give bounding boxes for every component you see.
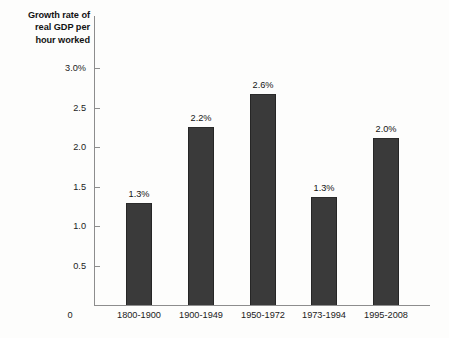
chart-title: Growth rate of real GDP per hour worked — [8, 9, 90, 46]
bar-1973-1994 — [311, 197, 337, 305]
chart-title-line-3: hour worked — [8, 34, 90, 46]
chart-title-line-1: Growth rate of — [8, 9, 90, 21]
chart-title-line-2: real GDP per — [8, 21, 90, 33]
bar-1900-1949 — [188, 127, 214, 305]
y-axis-tick-1.5 — [94, 187, 100, 188]
bar-1995-2008 — [373, 138, 399, 305]
x-axis-label-1995-2008: 1995-2008 — [343, 310, 429, 320]
bar-value-1973-1994: 1.3% — [294, 183, 354, 193]
y-axis-label-3.0: 3.0% — [26, 63, 86, 73]
bar-value-1950-1972: 2.6% — [233, 80, 293, 90]
y-axis-line — [94, 16, 95, 306]
y-axis-tick-2.0 — [94, 147, 100, 148]
y-axis-label-1.0: 1.0 — [26, 221, 86, 231]
bar-1950-1972 — [250, 94, 276, 305]
y-axis-tick-2.5 — [94, 108, 100, 109]
x-axis-line — [94, 305, 430, 306]
y-axis-label-2.5: 2.5 — [26, 103, 86, 113]
y-axis-label-1.5: 1.5 — [26, 182, 86, 192]
y-axis-label-0: 0 — [60, 310, 80, 320]
y-axis-tick-0.5 — [94, 266, 100, 267]
y-axis-tick-1.0 — [94, 226, 100, 227]
bar-value-1800-1900: 1.3% — [109, 189, 169, 199]
y-axis-label-0.5: 0.5 — [26, 261, 86, 271]
bar-value-1900-1949: 2.2% — [171, 113, 231, 123]
bar-chart: Growth rate of real GDP per hour worked … — [0, 0, 449, 338]
y-axis-tick-3.0 — [94, 68, 100, 69]
y-axis-label-2.0: 2.0 — [26, 142, 86, 152]
bar-1800-1900 — [126, 203, 152, 305]
bar-value-1995-2008: 2.0% — [356, 124, 416, 134]
